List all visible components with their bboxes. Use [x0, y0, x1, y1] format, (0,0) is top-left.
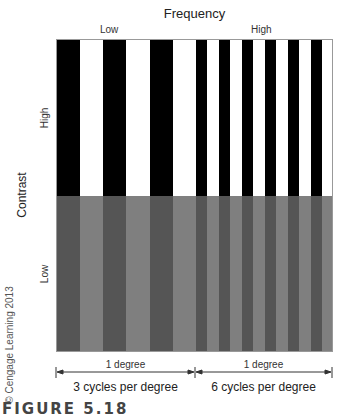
- dark-stripe: [196, 196, 208, 352]
- frequency-high-label: High: [251, 24, 272, 35]
- dark-stripe: [311, 196, 323, 352]
- light-stripe: [276, 196, 288, 352]
- light-stripe: [173, 196, 196, 352]
- dark-stripe: [242, 40, 254, 196]
- light-stripe: [253, 40, 265, 196]
- copyright-notice: © Cengage Learning 2013: [4, 286, 15, 403]
- light-stripe: [80, 196, 103, 352]
- left-degree-label: 1 degree: [56, 359, 195, 370]
- contrast-high-label: High: [39, 108, 50, 129]
- frequency-axis-title: Frequency: [0, 6, 349, 21]
- right-cycles-caption: 6 cycles per degree: [195, 380, 332, 394]
- dark-stripe: [311, 40, 323, 196]
- light-stripe: [126, 40, 149, 196]
- light-stripe: [230, 196, 242, 352]
- dark-stripe: [103, 196, 126, 352]
- light-stripe: [299, 196, 311, 352]
- dark-stripe: [265, 40, 277, 196]
- contrast-low-label: Low: [39, 265, 50, 283]
- light-stripe: [322, 196, 333, 352]
- dark-stripe: [242, 196, 254, 352]
- light-stripe: [253, 196, 265, 352]
- dark-stripe: [196, 40, 208, 196]
- dark-stripe: [288, 196, 300, 352]
- high-contrast-gratings: [57, 40, 332, 196]
- dark-stripe: [150, 40, 173, 196]
- figure-word: FIGURE: [2, 400, 76, 418]
- dark-stripe: [57, 40, 80, 196]
- light-stripe: [299, 40, 311, 196]
- figure-number: 5.18: [83, 400, 128, 418]
- contrast-axis-title: Contrast: [15, 172, 29, 217]
- light-stripe: [322, 40, 333, 196]
- light-stripe: [173, 40, 196, 196]
- dark-stripe: [265, 196, 277, 352]
- dark-stripe: [288, 40, 300, 196]
- figure-caption: FIGURE 5.18: [2, 400, 128, 418]
- low-contrast-gratings: [57, 196, 332, 352]
- grating-figure: [56, 39, 333, 352]
- dark-stripe: [219, 40, 231, 196]
- right-degree-label: 1 degree: [195, 359, 332, 370]
- left-cycles-caption: 3 cycles per degree: [56, 380, 195, 394]
- light-stripe: [126, 196, 149, 352]
- dark-stripe: [103, 40, 126, 196]
- light-stripe: [80, 40, 103, 196]
- light-stripe: [230, 40, 242, 196]
- light-stripe: [207, 196, 219, 352]
- light-stripe: [207, 40, 219, 196]
- dark-stripe: [219, 196, 231, 352]
- light-stripe: [276, 40, 288, 196]
- dark-stripe: [150, 196, 173, 352]
- frequency-low-label: Low: [100, 24, 118, 35]
- dark-stripe: [57, 196, 80, 352]
